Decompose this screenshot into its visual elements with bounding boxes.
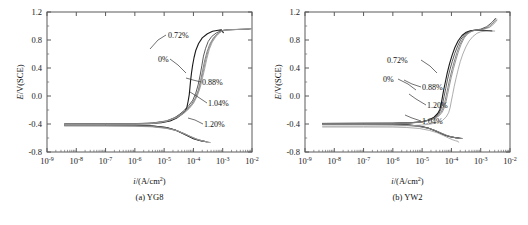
x-tick-label: 10-5	[415, 156, 429, 166]
curve-0-72pct-anodic	[323, 18, 496, 123]
curve-annotation: 1.20%	[204, 120, 225, 129]
curve-annotation: 1.04%	[208, 99, 229, 108]
curve-1-04pct-anodic	[65, 29, 252, 124]
x-tick-label: 10-2	[245, 156, 259, 166]
x-tick-label: 10-6	[128, 156, 142, 166]
y-tick-label: 0.8	[31, 35, 42, 45]
panel-caption: (b) YW2	[392, 192, 422, 202]
curve-1-04pct-cathodic	[65, 126, 209, 143]
x-axis-title: i/(A/cm2)	[133, 176, 165, 186]
curve-annotation: 0.72%	[168, 31, 189, 40]
x-tick-label: 10-3	[216, 156, 230, 166]
x-tick-label: 10-9	[298, 156, 312, 166]
curve-annotation: 1.04%	[422, 117, 443, 126]
y-tick-label: 1.2	[31, 7, 42, 17]
curve-annotation: 1.20%	[427, 101, 448, 110]
x-tick-label: 10-3	[474, 156, 488, 166]
x-tick-label: 10-4	[445, 156, 459, 166]
curve-1-04pct-anodic	[323, 31, 495, 126]
x-tick-label: 10-8	[328, 156, 342, 166]
chart-svg-b: 10-910-810-710-610-510-410-310-21.20.80.…	[264, 0, 528, 225]
y-tick-label: 0.0	[289, 91, 300, 101]
annotation-leader-line	[405, 115, 421, 121]
chart-panel-b: 10-910-810-710-610-510-410-310-21.20.80.…	[264, 0, 528, 225]
annotation-leader-line	[170, 59, 186, 73]
labels-a: 0.72%0%0.88%1.04%1.20%	[150, 31, 229, 129]
curve-annotation: 0%	[158, 55, 169, 64]
curve-0pct-anodic	[323, 30, 492, 123]
curve-0-72pct-anodic	[65, 29, 250, 124]
curve-1-20pct-cathodic	[65, 126, 211, 143]
y-tick-label: 0.0	[31, 91, 42, 101]
y-tick-label: -0.8	[287, 147, 300, 157]
curve-0-88pct-cathodic	[65, 125, 208, 142]
curve-0-72pct-cathodic	[65, 125, 207, 142]
x-axis-title: i/(A/cm2)	[391, 176, 423, 186]
curve-annotation: 0.88%	[422, 83, 443, 92]
curve-1-20pct-anodic	[65, 29, 252, 125]
x-tick-label: 10-7	[99, 156, 113, 166]
y-axis-title: E/V(SCE)	[15, 64, 25, 100]
annotation-leader-line	[150, 35, 166, 49]
x-tick-label: 10-4	[187, 156, 201, 166]
curve-annotation: 0%	[383, 75, 394, 84]
y-tick-label: 0.8	[289, 35, 300, 45]
x-tick-label: 10-8	[70, 156, 84, 166]
x-tick-label: 10-5	[157, 156, 171, 166]
chart-svg-a: 10-910-810-710-610-510-410-310-21.20.80.…	[0, 0, 264, 225]
curve-annotation: 0.72%	[387, 56, 408, 65]
curve-annotation: 0.88%	[202, 78, 223, 87]
curves-b	[323, 18, 497, 142]
curve-1-04pct-cathodic	[323, 127, 459, 142]
y-tick-label: -0.8	[29, 147, 42, 157]
y-tick-label: 0.4	[31, 63, 42, 73]
curve-1-20pct-anodic	[323, 20, 497, 124]
y-axis-title: E/V(SCE)	[273, 64, 283, 100]
annotation-leader-line	[409, 94, 426, 105]
panel-caption: (a) YG8	[136, 192, 164, 202]
axes-b: 10-910-810-710-610-510-410-310-21.20.80.…	[273, 7, 517, 202]
y-tick-label: 0.4	[289, 63, 300, 73]
y-tick-label: 1.2	[289, 7, 300, 17]
x-tick-label: 10-7	[357, 156, 371, 166]
x-tick-label: 10-9	[40, 156, 54, 166]
curve-0-88pct-anodic	[323, 19, 497, 123]
curve-0-88pct-anodic	[65, 29, 251, 124]
x-tick-label: 10-2	[503, 156, 517, 166]
x-tick-label: 10-6	[386, 156, 400, 166]
y-tick-label: -0.4	[29, 119, 43, 129]
chart-panel-a: 10-910-810-710-610-510-410-310-21.20.80.…	[0, 0, 264, 225]
annotation-leader-line	[421, 60, 437, 73]
figure-polarization-curves: 10-910-810-710-610-510-410-310-21.20.80.…	[0, 0, 528, 225]
annotation-leader-line	[188, 118, 203, 124]
y-tick-label: -0.4	[287, 119, 301, 129]
